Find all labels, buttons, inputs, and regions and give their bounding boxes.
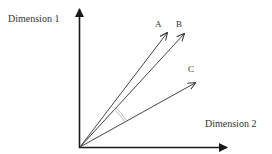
vector-a <box>80 33 167 147</box>
y-axis-label: Dimension 1 <box>8 13 59 24</box>
vector-c <box>80 83 195 147</box>
angle-marker <box>115 108 127 122</box>
vector-b <box>80 34 184 147</box>
vector-c-label: C <box>188 64 194 74</box>
vector-a-label: A <box>155 19 162 29</box>
vector-b-label: B <box>176 19 182 29</box>
x-axis-label: Dimension 2 <box>205 118 256 129</box>
